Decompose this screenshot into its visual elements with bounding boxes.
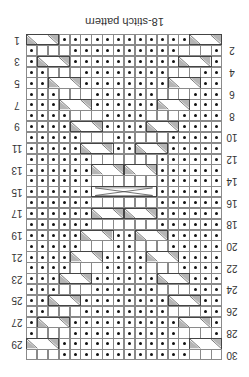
purl-cell — [135, 306, 146, 317]
purl-dot-icon — [41, 158, 44, 161]
purl-cell — [37, 154, 48, 165]
row-number-label: 26 — [224, 306, 240, 316]
knit-cell — [37, 349, 48, 360]
purl-dot-icon — [85, 353, 88, 356]
purl-dot-icon — [204, 71, 207, 74]
purl-dot-icon — [194, 190, 197, 193]
cable-3 — [168, 295, 201, 306]
row-number-label: 24 — [224, 284, 240, 294]
purl-dot-icon — [139, 71, 142, 74]
purl-cell — [135, 284, 146, 295]
knit-cell — [135, 219, 146, 230]
row-number-label: 17 — [9, 208, 25, 218]
purl-cell — [135, 88, 146, 99]
purl-dot-icon — [85, 332, 88, 335]
purl-dot-icon — [63, 212, 66, 215]
purl-dot-icon — [106, 256, 109, 259]
purl-dot-icon — [117, 147, 120, 150]
purl-dot-icon — [161, 223, 164, 226]
purl-dot-icon — [41, 266, 44, 269]
purl-dot-icon — [139, 332, 142, 335]
purl-dot-icon — [106, 71, 109, 74]
cable-3 — [26, 34, 59, 45]
purl-cell — [91, 295, 102, 306]
purl-cell — [59, 143, 70, 154]
purl-dot-icon — [30, 169, 33, 172]
purl-cell — [146, 338, 157, 349]
purl-cell — [211, 77, 222, 88]
purl-cell — [113, 295, 124, 306]
purl-cell — [91, 34, 102, 45]
purl-dot-icon — [215, 136, 218, 139]
purl-cell — [26, 154, 37, 165]
purl-cell — [135, 45, 146, 56]
purl-dot-icon — [52, 158, 55, 161]
purl-dot-icon — [183, 158, 186, 161]
purl-cell — [189, 273, 200, 284]
purl-cell — [37, 273, 48, 284]
purl-dot-icon — [74, 49, 77, 52]
purl-cell — [80, 317, 91, 328]
knit-cell — [91, 219, 102, 230]
purl-dot-icon — [74, 38, 77, 41]
purl-dot-icon — [128, 93, 131, 96]
purl-cell — [168, 143, 179, 154]
purl-dot-icon — [161, 158, 164, 161]
purl-cell — [146, 273, 157, 284]
purl-cell — [146, 306, 157, 317]
knit-cell — [178, 306, 189, 317]
purl-dot-icon — [204, 256, 207, 259]
purl-dot-icon — [117, 93, 120, 96]
purl-cell — [168, 34, 179, 45]
purl-dot-icon — [96, 310, 99, 313]
purl-dot-icon — [74, 353, 77, 356]
purl-cell — [70, 230, 81, 241]
purl-cell — [91, 284, 102, 295]
purl-dot-icon — [41, 245, 44, 248]
purl-cell — [70, 327, 81, 338]
purl-dot-icon — [161, 201, 164, 204]
purl-dot-icon — [30, 179, 33, 182]
purl-cell — [26, 251, 37, 262]
purl-cell — [102, 284, 113, 295]
purl-dot-icon — [30, 125, 33, 128]
purl-dot-icon — [30, 299, 33, 302]
purl-cell — [146, 67, 157, 78]
purl-cell — [48, 99, 59, 110]
knit-cell — [178, 67, 189, 78]
purl-cell — [200, 186, 211, 197]
purl-dot-icon — [150, 49, 153, 52]
purl-cell — [91, 338, 102, 349]
purl-cell — [211, 197, 222, 208]
purl-cell — [37, 132, 48, 143]
purl-dot-icon — [128, 288, 131, 291]
purl-dot-icon — [183, 179, 186, 182]
purl-dot-icon — [96, 82, 99, 85]
purl-cell — [124, 143, 135, 154]
purl-cell — [80, 34, 91, 45]
purl-dot-icon — [63, 353, 66, 356]
purl-dot-icon — [41, 212, 44, 215]
purl-cell — [135, 99, 146, 110]
purl-dot-icon — [215, 158, 218, 161]
purl-dot-icon — [215, 190, 218, 193]
purl-dot-icon — [161, 38, 164, 41]
cable-3 — [59, 273, 92, 284]
purl-cell — [26, 56, 37, 67]
row-number-label: 18 — [224, 219, 240, 229]
purl-dot-icon — [85, 310, 88, 313]
purl-cell — [157, 219, 168, 230]
purl-cell — [157, 327, 168, 338]
purl-cell — [113, 240, 124, 251]
knit-cell — [91, 262, 102, 273]
purl-dot-icon — [106, 299, 109, 302]
purl-dot-icon — [30, 288, 33, 291]
row-number-label: 28 — [224, 328, 240, 338]
purl-dot-icon — [106, 38, 109, 41]
purl-dot-icon — [161, 71, 164, 74]
purl-dot-icon — [172, 223, 175, 226]
purl-cell — [26, 208, 37, 219]
row-number-label: 21 — [9, 252, 25, 262]
purl-cell — [59, 251, 70, 262]
purl-dot-icon — [74, 234, 77, 237]
